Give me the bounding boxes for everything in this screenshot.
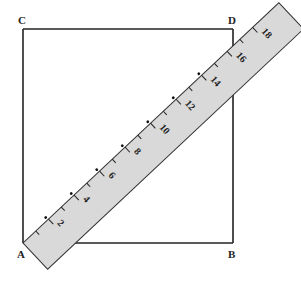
vertex-label-d: D [228, 14, 236, 26]
ruler-dot [69, 192, 73, 196]
square-abcd [23, 29, 233, 243]
vertex-label-c: C [18, 14, 26, 26]
ruler: 24681012141618 [20, 0, 301, 269]
vertex-label-a: A [17, 248, 25, 260]
ruler-dot [44, 216, 48, 220]
vertex-label-b: B [228, 248, 236, 260]
ruler-dot [146, 120, 150, 124]
diagram-canvas: 24681012141618 C D A B [0, 0, 301, 283]
ruler-dot [120, 144, 124, 148]
ruler-body [23, 3, 301, 270]
ruler-dot [95, 168, 99, 172]
ruler-dot [171, 96, 175, 100]
ruler-dot [197, 72, 201, 76]
